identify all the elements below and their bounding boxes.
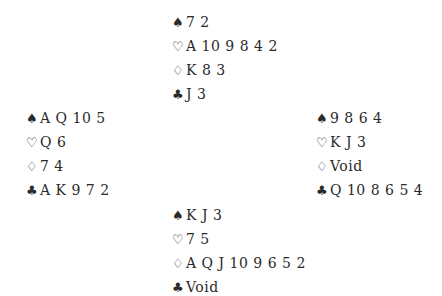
south-hearts: ♡7 5: [172, 227, 306, 251]
north-spades-cards: 7 2: [186, 14, 210, 30]
heart-icon: ♡: [172, 228, 186, 252]
north-spades: ♠7 2: [172, 10, 278, 34]
west-spades: ♠A Q 10 5: [26, 106, 110, 130]
spade-icon: ♠: [316, 107, 330, 131]
east-spades: ♠9 8 6 4: [316, 106, 423, 130]
west-clubs-cards: A K 9 7 2: [40, 182, 110, 198]
diamond-icon: ♢: [172, 252, 186, 276]
spade-icon: ♠: [26, 107, 40, 131]
south-clubs: ♣Void: [172, 275, 306, 296]
east-hearts: ♡K J 3: [316, 130, 423, 154]
east-clubs: ♣Q 10 8 6 5 4: [316, 178, 423, 202]
diamond-icon: ♢: [316, 155, 330, 179]
east-clubs-cards: Q 10 8 6 5 4: [330, 182, 423, 198]
east-diamonds: ♢Void: [316, 154, 423, 178]
heart-icon: ♡: [316, 131, 330, 155]
west-diamonds: ♢7 4: [26, 154, 110, 178]
north-hearts-cards: A 10 9 8 4 2: [186, 38, 278, 54]
club-icon: ♣: [172, 276, 186, 296]
north-clubs: ♣J 3: [172, 82, 278, 106]
heart-icon: ♡: [26, 131, 40, 155]
diamond-icon: ♢: [172, 59, 186, 83]
west-diamonds-cards: 7 4: [40, 158, 64, 174]
spade-icon: ♠: [172, 11, 186, 35]
south-diamonds-cards: A Q J 10 9 6 5 2: [186, 255, 306, 271]
spade-icon: ♠: [172, 204, 186, 228]
south-diamonds: ♢A Q J 10 9 6 5 2: [172, 251, 306, 275]
west-hearts-cards: Q 6: [40, 134, 66, 150]
club-icon: ♣: [172, 83, 186, 107]
heart-icon: ♡: [172, 35, 186, 59]
east-spades-cards: 9 8 6 4: [330, 110, 382, 126]
west-hand: ♠A Q 10 5 ♡Q 6 ♢7 4 ♣A K 9 7 2: [26, 106, 110, 202]
south-hearts-cards: 7 5: [186, 231, 210, 247]
east-diamonds-cards: Void: [330, 158, 363, 174]
west-hearts: ♡Q 6: [26, 130, 110, 154]
west-clubs: ♣A K 9 7 2: [26, 178, 110, 202]
north-diamonds: ♢K 8 3: [172, 58, 278, 82]
south-clubs-cards: Void: [186, 279, 219, 295]
north-diamonds-cards: K 8 3: [186, 62, 226, 78]
south-spades: ♠K J 3: [172, 203, 306, 227]
south-spades-cards: K J 3: [186, 207, 222, 223]
east-hearts-cards: K J 3: [330, 134, 366, 150]
club-icon: ♣: [316, 179, 330, 203]
club-icon: ♣: [26, 179, 40, 203]
south-hand: ♠K J 3 ♡7 5 ♢A Q J 10 9 6 5 2 ♣Void: [172, 203, 306, 296]
north-clubs-cards: J 3: [186, 86, 206, 102]
east-hand: ♠9 8 6 4 ♡K J 3 ♢Void ♣Q 10 8 6 5 4: [316, 106, 423, 202]
north-hand: ♠7 2 ♡A 10 9 8 4 2 ♢K 8 3 ♣J 3: [172, 10, 278, 106]
north-hearts: ♡A 10 9 8 4 2: [172, 34, 278, 58]
diamond-icon: ♢: [26, 155, 40, 179]
west-spades-cards: A Q 10 5: [40, 110, 106, 126]
